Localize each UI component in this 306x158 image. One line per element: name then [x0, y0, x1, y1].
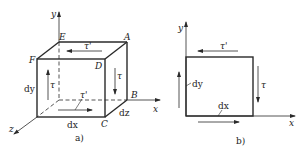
- dim-label-dy: dy: [24, 84, 36, 94]
- stress-label-tau-right: τ: [117, 71, 123, 81]
- dy-leader: [186, 83, 191, 86]
- vertex-label-F: F: [28, 55, 36, 65]
- figure-b: y x dy dx τ' τ b): [177, 22, 295, 146]
- caption-a: a): [75, 133, 84, 143]
- stress-label-tau: τ: [261, 80, 267, 90]
- vertex-label-D: D: [94, 61, 102, 71]
- vertex-label-C: C: [101, 119, 108, 129]
- dim-label-dx: dx: [218, 101, 229, 111]
- stress-label-tau-left: τ: [50, 80, 56, 90]
- tau-prime-leader: [75, 99, 82, 110]
- axis-label-y: y: [177, 23, 184, 33]
- axis-label-x: x: [153, 104, 158, 114]
- stress-label-tau-prime: τ': [220, 41, 227, 51]
- dim-label-dx: dx: [67, 120, 78, 130]
- caption-b: b): [236, 136, 245, 146]
- z-axis: [14, 117, 37, 134]
- axis-label-z: z: [8, 124, 14, 134]
- stress-label-tau-prime-top: τ': [84, 41, 91, 51]
- vertex-label-A: A: [123, 32, 131, 42]
- diagram-canvas: y x z E A F D B C dy dx dz τ' τ τ τ' a) …: [0, 0, 306, 158]
- figure-a: y x z E A F D B C dy dx dz τ' τ τ τ' a): [8, 9, 160, 143]
- axis-label-x: x: [289, 118, 294, 128]
- stress-label-tau-prime-bottom: τ': [80, 90, 87, 100]
- dim-label-dy: dy: [192, 79, 204, 89]
- dim-label-dz: dz: [119, 108, 130, 118]
- vertex-label-E: E: [58, 32, 66, 42]
- vertex-label-B: B: [130, 90, 138, 100]
- axis-label-y: y: [50, 9, 57, 19]
